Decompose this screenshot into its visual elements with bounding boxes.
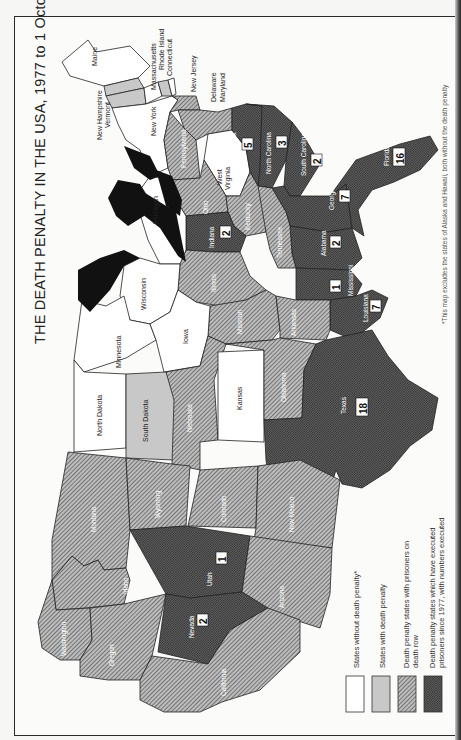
svg-text:Wisconsin: Wisconsin bbox=[140, 278, 147, 310]
svg-text:Illinois: Illinois bbox=[210, 273, 217, 292]
svg-text:Kentucky: Kentucky bbox=[244, 203, 252, 230]
legend-label-no-penalty: States without death penalty* bbox=[352, 571, 361, 668]
svg-text:West: West bbox=[216, 169, 223, 185]
svg-text:Rhode Island: Rhode Island bbox=[158, 29, 165, 70]
swatch-executed bbox=[424, 676, 442, 712]
svg-text:New Hampshire: New Hampshire bbox=[96, 90, 104, 140]
svg-text:Ohio: Ohio bbox=[202, 200, 209, 214]
svg-text:South Dakota: South Dakota bbox=[142, 399, 149, 442]
legend-label-death-row-1: Death penalty states with prisoners on bbox=[402, 541, 411, 668]
svg-text:Connecticut: Connecticut bbox=[166, 39, 173, 76]
swatch-death-row bbox=[398, 676, 416, 712]
count-utah: 1 bbox=[216, 552, 228, 564]
svg-text:Massachusetts: Massachusetts bbox=[150, 43, 157, 90]
swatch-with-penalty bbox=[372, 676, 390, 712]
swatch-no-penalty bbox=[346, 676, 364, 712]
svg-text:New York: New York bbox=[150, 106, 157, 136]
svg-text:18: 18 bbox=[358, 402, 369, 414]
svg-text:Arkansas: Arkansas bbox=[290, 308, 297, 336]
svg-text:Virginia: Virginia bbox=[224, 167, 232, 190]
svg-text:Michigan: Michigan bbox=[152, 196, 160, 224]
svg-text:Montana: Montana bbox=[90, 506, 97, 532]
svg-text:North Carolina: North Carolina bbox=[265, 132, 272, 174]
svg-text:7: 7 bbox=[371, 304, 382, 310]
svg-text:Oklahoma: Oklahoma bbox=[280, 372, 287, 402]
svg-text:Nebraska: Nebraska bbox=[186, 404, 193, 432]
state-arkansas bbox=[276, 296, 330, 340]
svg-text:7: 7 bbox=[340, 194, 351, 200]
state-south-dakota bbox=[126, 372, 176, 460]
count-georgia: 7 bbox=[339, 190, 351, 202]
count-texas: 18 bbox=[356, 398, 369, 416]
svg-text:3: 3 bbox=[277, 140, 288, 146]
svg-text:Oregon: Oregon bbox=[108, 644, 116, 666]
svg-text:Arizona: Arizona bbox=[278, 586, 285, 608]
count-alabama: 2 bbox=[330, 236, 342, 248]
count-indiana: 2 bbox=[220, 226, 232, 238]
count-north-carolina: 3 bbox=[276, 136, 288, 148]
svg-text:2: 2 bbox=[331, 240, 342, 246]
svg-text:2: 2 bbox=[198, 618, 209, 624]
count-virginia: 5 bbox=[242, 138, 254, 150]
svg-text:Delaware: Delaware bbox=[210, 72, 217, 102]
svg-text:New Jersey: New Jersey bbox=[190, 55, 198, 92]
count-south-carolina: 2 bbox=[311, 154, 323, 166]
count-louisiana: 7 bbox=[370, 300, 382, 312]
svg-text:California: California bbox=[220, 668, 227, 696]
svg-text:Minnesota: Minnesota bbox=[115, 336, 122, 368]
svg-text:Kansas: Kansas bbox=[236, 386, 243, 410]
svg-text:5: 5 bbox=[243, 142, 254, 148]
count-nevada: 2 bbox=[197, 614, 209, 626]
svg-text:Indiana: Indiana bbox=[208, 226, 215, 248]
map-title: THE DEATH PENALTY IN THE USA, 1977 to 1 … bbox=[28, 24, 52, 344]
svg-text:2: 2 bbox=[312, 158, 323, 164]
svg-text:North Dakota: North Dakota bbox=[96, 395, 103, 436]
svg-text:Colorado: Colorado bbox=[220, 495, 227, 522]
svg-text:Vermont: Vermont bbox=[104, 102, 111, 128]
svg-text:Georgia: Georgia bbox=[328, 186, 336, 210]
legend-label-executed-2: prisoners since 1977, with numbers execu… bbox=[437, 518, 446, 669]
map-page: Maine New Hampshire Vermont Massachusett… bbox=[0, 0, 461, 740]
svg-text:Pennsylvania: Pennsylvania bbox=[180, 129, 188, 168]
svg-text:16: 16 bbox=[395, 152, 406, 164]
svg-text:Florida: Florida bbox=[383, 146, 390, 166]
svg-text:New Mexico: New Mexico bbox=[288, 496, 295, 532]
svg-text:Washington: Washington bbox=[60, 622, 68, 656]
svg-text:Louisiana: Louisiana bbox=[362, 294, 369, 322]
svg-text:Maryland: Maryland bbox=[219, 73, 227, 102]
svg-text:Missouri: Missouri bbox=[236, 310, 243, 334]
legend-label-with-penalty: States with death penalty bbox=[378, 584, 387, 668]
svg-text:2: 2 bbox=[221, 230, 232, 236]
svg-text:1: 1 bbox=[331, 284, 342, 290]
svg-text:Utah: Utah bbox=[206, 572, 213, 586]
svg-text:Maine: Maine bbox=[91, 47, 98, 66]
svg-text:Idaho: Idaho bbox=[122, 577, 129, 594]
svg-text:1: 1 bbox=[217, 556, 228, 562]
legend-label-death-row-2: death row bbox=[411, 635, 420, 668]
svg-text:Nevada: Nevada bbox=[188, 615, 195, 638]
footnote: *This map excludes the states of Alaska … bbox=[440, 24, 450, 324]
state-new-mexico bbox=[254, 460, 340, 548]
state-utah bbox=[130, 526, 250, 598]
scan-edge bbox=[455, 0, 461, 740]
svg-text:South Carolina: South Carolina bbox=[300, 133, 307, 176]
svg-text:Tennessee: Tennessee bbox=[276, 226, 283, 258]
svg-text:Wyoming: Wyoming bbox=[154, 491, 162, 518]
svg-text:Mississippi: Mississippi bbox=[347, 265, 355, 296]
svg-text:Texas: Texas bbox=[340, 396, 347, 414]
usa-map: Maine New Hampshire Vermont Massachusett… bbox=[0, 0, 461, 740]
svg-text:Virginia: Virginia bbox=[230, 132, 238, 154]
count-florida: 16 bbox=[393, 148, 406, 166]
legend-swatches bbox=[346, 676, 442, 712]
legend-label-executed-1: Death penalty states which have executed bbox=[428, 527, 437, 668]
svg-text:Alabama: Alabama bbox=[320, 230, 327, 256]
count-mississippi: 1 bbox=[330, 280, 342, 292]
svg-text:Iowa: Iowa bbox=[182, 329, 189, 344]
